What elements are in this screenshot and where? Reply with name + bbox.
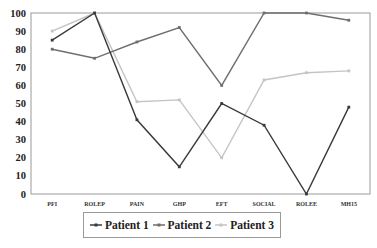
y-tick-label: 80	[16, 44, 27, 55]
data-point-marker	[178, 26, 181, 29]
legend-label: Patient 2	[168, 219, 212, 231]
y-tick-label: 70	[16, 62, 27, 73]
x-tick-label: EFT	[216, 201, 228, 207]
x-tick-label: PAIN	[130, 201, 145, 207]
y-tick-label: 100	[10, 8, 26, 19]
data-point-marker	[51, 30, 54, 33]
data-point-marker	[93, 12, 96, 15]
x-axis-ticks: PFIROLEPPAINGHPEFTSOCIALROLEEMH15	[47, 201, 357, 207]
y-axis-ticks: 0102030405060708090100	[10, 8, 26, 200]
legend-item-patient-2: Patient 2	[153, 219, 212, 231]
x-tick-label: PFI	[47, 201, 57, 207]
y-tick-label: 20	[16, 152, 27, 163]
legend-label: Patient 3	[230, 219, 274, 231]
x-tick-label: GHP	[173, 201, 186, 207]
data-point-marker	[220, 102, 223, 105]
legend-marker-icon	[90, 221, 102, 229]
data-point-marker	[263, 79, 266, 82]
data-point-marker	[220, 84, 223, 87]
x-tick-label: ROLEP	[84, 201, 105, 207]
data-point-marker	[263, 12, 266, 15]
data-point-marker	[305, 71, 308, 74]
y-tick-label: 90	[16, 26, 27, 37]
data-point-marker	[51, 39, 54, 42]
y-tick-label: 10	[16, 170, 27, 181]
data-point-marker	[305, 193, 308, 196]
data-point-marker	[178, 165, 181, 168]
line-chart: 0102030405060708090100 PFIROLEPPAINGHPEF…	[0, 0, 377, 210]
data-point-marker	[136, 100, 139, 103]
data-point-marker	[136, 41, 139, 44]
legend-label: Patient 1	[105, 219, 149, 231]
data-point-marker	[347, 106, 350, 109]
legend-item-patient-3: Patient 3	[215, 219, 274, 231]
legend-item-patient-1: Patient 1	[90, 219, 149, 231]
y-tick-label: 60	[16, 80, 27, 91]
y-tick-label: 50	[16, 98, 27, 109]
x-tick-label: SOCIAL	[253, 201, 276, 207]
data-point-marker	[263, 124, 266, 127]
y-tick-label: 40	[16, 116, 27, 127]
x-tick-label: ROLEE	[296, 201, 317, 207]
data-point-marker	[347, 70, 350, 73]
legend-marker-icon	[215, 221, 227, 229]
data-point-marker	[220, 156, 223, 159]
data-point-marker	[347, 19, 350, 22]
data-point-marker	[305, 12, 308, 15]
y-tick-label: 0	[21, 189, 26, 200]
chart-legend: Patient 1 Patient 2 Patient 3	[83, 212, 281, 238]
data-point-marker	[178, 98, 181, 101]
data-point-marker	[93, 57, 96, 60]
legend-marker-icon	[153, 221, 165, 229]
x-tick-label: MH15	[341, 201, 357, 207]
data-point-marker	[136, 118, 139, 121]
y-tick-label: 30	[16, 134, 27, 145]
data-point-marker	[51, 48, 54, 51]
